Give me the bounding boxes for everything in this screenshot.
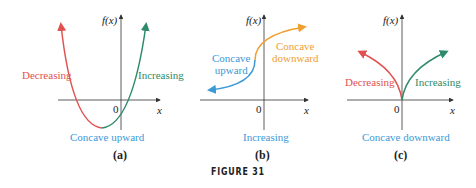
panel-b-caption: (b) [255, 148, 270, 163]
panel-a-right-label: Increasing [138, 69, 184, 81]
panel-b-right-label-line2: downward [272, 52, 318, 64]
panel-c-axes [347, 15, 453, 130]
panel-b-right-label-line1: Concave [276, 40, 314, 52]
panel-a-x-label: x [157, 104, 162, 116]
panel-b-origin: 0 [256, 103, 262, 115]
panel-c-bottom-label: Concave downward [362, 131, 450, 143]
panel-c-x-label: x [450, 104, 455, 116]
panel-a-bottom-label: Concave upward [70, 131, 144, 143]
panel-b-y-label: f(x) [246, 14, 261, 26]
panel-b-right-label: Concavedownward [272, 40, 318, 64]
panel-a-y-label: f(x) [102, 14, 117, 26]
figure-label: FIGURE 31 [48, 165, 429, 178]
panel-c-origin: 0 [394, 103, 400, 115]
panel-c-y-label: f(x) [383, 14, 398, 26]
panel-b-left-label-line2: upward [215, 64, 248, 76]
panel-c-right-label: Increasing [415, 76, 461, 88]
panel-b-bottom-label: Increasing [243, 131, 289, 143]
panel-a-origin: 0 [113, 103, 119, 115]
panel-b-left-label: Concaveupward [212, 52, 250, 76]
panel-c-caption: (c) [394, 148, 407, 163]
panel-b-x-label: x [304, 104, 309, 116]
panel-b-left-label-line1: Concave [212, 52, 250, 64]
panel-c-left-label: Decreasing [345, 76, 394, 88]
panel-a-caption: (a) [113, 148, 127, 163]
panel-a-left-label: Decreasing [22, 69, 71, 81]
